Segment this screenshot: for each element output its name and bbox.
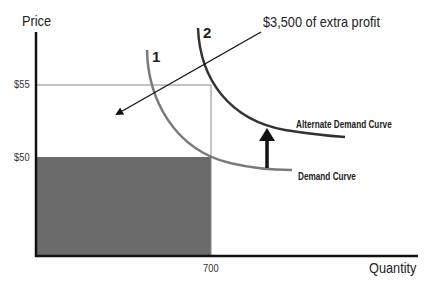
annotation-arrow bbox=[117, 32, 261, 114]
curve-1-number: 1 bbox=[152, 48, 160, 65]
y-axis-title: Price bbox=[22, 12, 51, 29]
shift-arrow-up-icon bbox=[259, 128, 275, 141]
tick-55: $55 bbox=[14, 78, 30, 90]
diagram-canvas bbox=[0, 0, 432, 290]
shaded-region bbox=[36, 157, 211, 256]
extra-profit-annotation: $3,500 of extra profit bbox=[263, 13, 380, 30]
tick-700: 700 bbox=[203, 262, 219, 274]
tick-50: $50 bbox=[14, 151, 30, 163]
demand-curve-1 bbox=[147, 50, 292, 170]
demand-curve-label: Demand Curve bbox=[298, 171, 356, 182]
curve-2-number: 2 bbox=[203, 24, 211, 41]
x-axis-title: Quantity bbox=[369, 259, 416, 276]
alternate-demand-curve-label: Alternate Demand Curve bbox=[296, 119, 392, 130]
